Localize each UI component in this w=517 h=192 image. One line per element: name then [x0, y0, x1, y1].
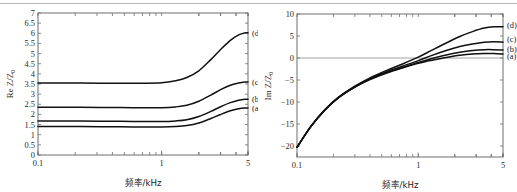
y-tick-label: −20: [281, 142, 294, 151]
y-tick-label: −5: [285, 76, 294, 85]
y-axis-title: Im Z/Z0: [263, 72, 274, 100]
data-curve-a: [38, 108, 248, 127]
x-tick-label: 5: [501, 161, 505, 170]
x-tick-label: 0.1: [292, 161, 302, 170]
svg-text:Re Z/Z0: Re Z/Z0: [5, 70, 16, 98]
y-tick-label: 1.5: [25, 121, 35, 130]
chart-panel-imag-impedance: −20−15−10−505100.115(a)(b)(c)(d)Im Z/Z0频…: [259, 0, 517, 192]
y-tick-label: 6: [31, 29, 35, 38]
y-tick-label: 0: [290, 54, 294, 63]
data-curve-c: [297, 42, 503, 148]
y-tick-label: −15: [281, 120, 294, 129]
x-tick-label: 1: [160, 159, 164, 168]
data-curve-b: [38, 99, 248, 121]
data-curve-c: [38, 82, 248, 108]
y-tick-label: 0.5: [25, 141, 35, 150]
y-tick-label: 3: [31, 90, 35, 99]
y-tick-label: 4: [31, 70, 36, 79]
y-tick-label: 10: [286, 10, 294, 19]
figure-root: 00.511.522.533.544.555.566.570.115(a)(b)…: [0, 0, 517, 192]
x-tick-label: 1: [416, 161, 420, 170]
curve-label-c: (c): [252, 78, 258, 87]
y-tick-label: 5: [290, 32, 294, 41]
y-tick-label: 1: [31, 131, 35, 140]
y-tick-label: 5: [31, 50, 35, 59]
y-axis-title: Re Z/Z0: [5, 70, 16, 98]
curve-label-a: (a): [252, 104, 258, 113]
x-tick-label: 5: [246, 159, 250, 168]
curve-label-d: (d): [507, 21, 517, 30]
y-tick-label: 7: [31, 9, 35, 18]
y-tick-label: 3.5: [25, 80, 35, 89]
imag-impedance-plot: −20−15−10−505100.115(a)(b)(c)(d)Im Z/Z0频…: [259, 0, 517, 192]
y-tick-label: 6.5: [25, 19, 35, 28]
svg-text:Im Z/Z0: Im Z/Z0: [263, 72, 274, 100]
curve-label-b: (b): [252, 95, 258, 104]
y-tick-label: 5.5: [25, 39, 35, 48]
chart-panel-real-impedance: 00.511.522.533.544.555.566.570.115(a)(b)…: [0, 0, 258, 192]
data-curve-d: [297, 27, 503, 148]
curve-label-c: (c): [507, 35, 517, 44]
x-axis-title: 频率/kHz: [125, 177, 162, 188]
data-curve-d: [38, 33, 248, 83]
curve-label-d: (d): [252, 29, 258, 38]
y-tick-label: −10: [281, 98, 294, 107]
y-tick-label: 2.5: [25, 100, 35, 109]
x-tick-label: 0.1: [33, 159, 43, 168]
x-axis-title: 频率/kHz: [382, 179, 419, 190]
curve-label-b: (b): [507, 45, 517, 54]
y-tick-label: 2: [31, 110, 35, 119]
y-tick-label: 4.5: [25, 60, 35, 69]
real-impedance-plot: 00.511.522.533.544.555.566.570.115(a)(b)…: [0, 0, 258, 192]
